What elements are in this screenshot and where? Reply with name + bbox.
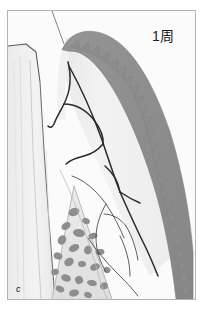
- panel-label: c: [16, 284, 21, 294]
- figure-panel: 1周 c: [0, 0, 203, 309]
- timepoint-label: 1周: [152, 28, 174, 44]
- histology-illustration: 1周 c: [0, 0, 203, 309]
